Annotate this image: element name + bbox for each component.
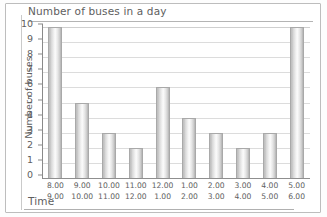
bottom-rule	[24, 209, 294, 210]
y-tick-label: 5	[27, 95, 33, 105]
y-tick-label: 8	[27, 49, 33, 59]
x-tick-label: 4.005.00	[256, 180, 283, 202]
bar	[290, 27, 304, 178]
y-tick-label: 6	[27, 80, 33, 90]
x-tick-label-start: 8.00	[42, 180, 69, 191]
y-tick-label: 4	[27, 110, 33, 120]
y-tick-label: 2	[27, 140, 33, 150]
bar	[182, 118, 196, 178]
y-tick-label: 3	[27, 125, 33, 135]
gridline	[42, 178, 310, 179]
x-tick-label-end: 2.00	[176, 191, 203, 202]
y-tick-label: 9	[27, 34, 33, 44]
bar	[48, 27, 62, 178]
x-tick-label: 9.0010.00	[69, 180, 96, 202]
y-axis-tick-labels: 012345678910	[2, 24, 38, 175]
x-tick-label-start: 11.00	[122, 180, 149, 191]
bar	[263, 133, 277, 178]
bar	[75, 103, 89, 179]
plot-area: 012345678910	[42, 27, 310, 178]
y-tick-label: 1	[27, 155, 33, 165]
x-tick-label: 12.001.00	[149, 180, 176, 202]
bar-series	[42, 27, 310, 178]
x-tick-label-start: 2.00	[203, 180, 230, 191]
bar	[236, 148, 250, 178]
title-underline-rule	[29, 21, 313, 22]
bar	[209, 133, 223, 178]
x-tick-label-end: 10.00	[69, 191, 96, 202]
x-tick-label-end: 3.00	[203, 191, 230, 202]
x-tick-label-start: 5.00	[283, 180, 310, 191]
bar	[129, 148, 143, 178]
x-tick-label-start: 4.00	[256, 180, 283, 191]
x-tick-label: 1.002.00	[176, 180, 203, 202]
x-tick-label-end: 4.00	[230, 191, 257, 202]
x-tick-label: 3.004.00	[230, 180, 257, 202]
y-tick-label: 10	[21, 19, 33, 29]
x-tick-label: 11.0012.00	[122, 180, 149, 202]
x-tick-label-start: 10.00	[96, 180, 123, 191]
x-tick-label-start: 3.00	[230, 180, 257, 191]
chart-title: Number of buses in a day	[28, 5, 167, 17]
bar-chart-figure: Number of buses in a day Number of buses…	[0, 0, 327, 217]
x-tick-label-start: 12.00	[149, 180, 176, 191]
x-tick-label-end: 11.00	[96, 191, 123, 202]
x-tick-label-end: 5.00	[256, 191, 283, 202]
x-axis-title: Time	[28, 195, 54, 207]
bar	[156, 87, 170, 178]
x-tick-label: 10.0011.00	[96, 180, 123, 202]
x-tick-label-end: 12.00	[122, 191, 149, 202]
x-tick-label-end: 1.00	[149, 191, 176, 202]
x-tick-label-start: 1.00	[176, 180, 203, 191]
x-tick-label: 5.006.00	[283, 180, 310, 202]
x-tick-label-end: 6.00	[283, 191, 310, 202]
x-tick-label-start: 9.00	[69, 180, 96, 191]
bar	[102, 133, 116, 178]
y-tick-label: 0	[27, 170, 33, 180]
x-axis-tick-labels: 8.009.009.0010.0010.0011.0011.0012.0012.…	[42, 180, 310, 210]
x-tick-label: 2.003.00	[203, 180, 230, 202]
y-tick-label: 7	[27, 65, 33, 75]
y-tick-mark	[38, 24, 43, 25]
